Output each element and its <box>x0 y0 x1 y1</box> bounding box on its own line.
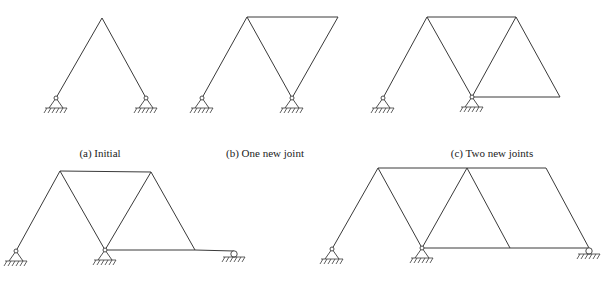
pin-support-icon <box>371 96 394 113</box>
truss-panel-e <box>320 168 600 264</box>
pin-support-icon <box>134 96 157 113</box>
caption-c: (c) Two new joints <box>451 147 533 159</box>
truss-member <box>16 171 60 251</box>
pin-support-icon <box>44 96 67 113</box>
roller-support-icon <box>577 248 600 259</box>
pin-support-icon <box>280 96 303 113</box>
pin-support-icon <box>410 246 433 263</box>
truss-member <box>195 250 234 251</box>
pin-support-icon <box>190 96 213 113</box>
truss-member <box>292 17 338 98</box>
pin-support-icon <box>320 247 343 264</box>
truss-member <box>467 168 510 248</box>
truss-member <box>247 17 292 98</box>
truss-member <box>516 17 560 97</box>
truss-member <box>202 17 247 98</box>
truss-panel-a <box>44 18 157 113</box>
truss-member <box>105 172 151 250</box>
pin-support-icon <box>4 249 27 266</box>
truss-member <box>332 168 378 249</box>
truss-member <box>60 171 105 250</box>
truss-member <box>546 168 589 248</box>
truss-diagrams <box>0 0 616 291</box>
truss-member <box>102 18 146 98</box>
caption-b: (b) One new joint <box>226 147 304 159</box>
caption-a: (a) Initial <box>79 147 120 159</box>
truss-member <box>56 18 102 98</box>
truss-member <box>60 171 151 172</box>
truss-panel-b <box>190 17 338 113</box>
truss-member <box>151 172 195 250</box>
truss-member <box>422 168 467 248</box>
roller-support-icon <box>222 251 245 262</box>
truss-member <box>427 17 472 97</box>
pin-support-icon <box>460 95 483 112</box>
truss-member <box>383 17 427 98</box>
truss-panel-d <box>4 171 245 266</box>
truss-panel-c <box>371 17 560 113</box>
truss-member <box>472 17 516 97</box>
pin-support-icon <box>93 248 116 265</box>
truss-member <box>378 168 422 248</box>
